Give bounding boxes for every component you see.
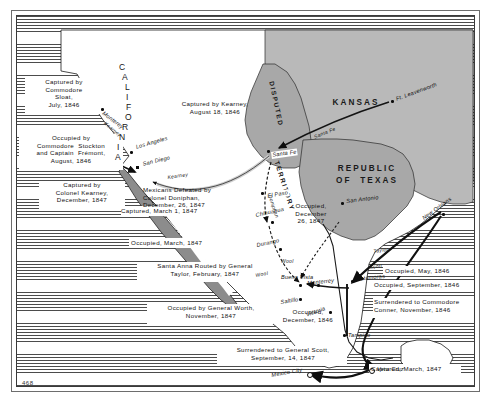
city-dot-matamoras xyxy=(351,280,354,283)
caption-scott-surrender: Surrendered to General Scott, September,… xyxy=(213,346,353,361)
city-dot-tampico xyxy=(343,334,346,337)
historical-map-figure: CALIFORNIA KANSAS DISPUTED TERRITORY REP… xyxy=(0,0,491,409)
city-dot-durango xyxy=(279,248,282,251)
region-label-texas: OF TEXAS xyxy=(325,176,409,186)
city-dot-buena-vista xyxy=(299,284,302,287)
caption-kearney-california: Captured by Colonel Kearney, December, 1… xyxy=(37,181,127,204)
caption-victoria-occupied: Occupied, December, 1846 xyxy=(271,308,345,323)
map-plate: CALIFORNIA KANSAS DISPUTED TERRITORY REP… xyxy=(17,16,474,386)
trail-label-wool-upper: Wool xyxy=(281,258,294,264)
page-number: 468 xyxy=(22,380,34,386)
city-dot-ft-leavenworth xyxy=(391,100,394,103)
city-dot-new-orleans xyxy=(442,213,445,216)
region-label-republic: REPUBLIC xyxy=(325,164,409,174)
caption-monterrey-september: Occupied, September, 1846 xyxy=(374,281,459,289)
caption-kearney-santa-fe: Captured by Kearney, August 18, 1846 xyxy=(157,100,273,115)
city-dot-san-antonio xyxy=(341,202,344,205)
place-label-buena-vista: Buena Vista xyxy=(281,274,313,281)
caption-buena-vista: Santa Anna Routed by General Taylor, Feb… xyxy=(135,262,275,277)
caption-stockton-fremont: Occupied by Commodore Stockton and Capta… xyxy=(17,134,125,164)
city-dot-saltillo xyxy=(299,298,302,301)
city-dot-chihuahua xyxy=(271,221,274,224)
place-label-tampico: Tampico xyxy=(348,332,370,339)
caption-chihuahua-captured: Captured, March 1, 1847 xyxy=(121,207,198,215)
region-label-kansas: KANSAS xyxy=(321,98,391,108)
caption-conner-surrender: Surrendered to Commodore Conner, Novembe… xyxy=(374,298,474,313)
city-dot-los-angeles xyxy=(130,151,133,154)
caption-doniphan: Mexicans Defeated by Colonel Doniphan, D… xyxy=(143,186,263,209)
caption-vera-cruz-captured: Captured, March, 1847 xyxy=(371,365,442,373)
caption-matamoras-occupied: Occupied, May, 1846 xyxy=(385,267,450,275)
city-dot-santa-fe xyxy=(267,150,270,153)
caption-worth-saltillo: Occupied by General Worth, November, 184… xyxy=(145,304,277,319)
caption-sloat: Captured by Commodore Sloat, July, 1846 xyxy=(23,78,105,108)
caption-durango-occupied: Occupied, March, 1847 xyxy=(131,239,202,247)
city-dot-san-diego xyxy=(136,166,139,169)
caption-monterrey-december: Occupied, December 26, 1847 xyxy=(287,202,335,225)
